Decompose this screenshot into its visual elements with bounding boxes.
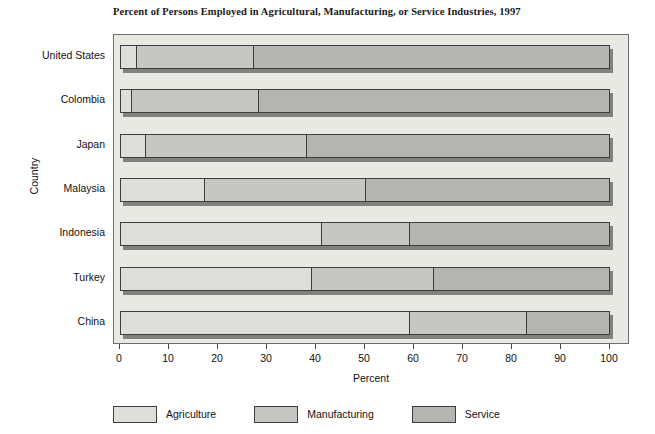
- x-axis-label-40: 40: [295, 352, 335, 364]
- y-axis-label-turkey: Turkey: [5, 271, 105, 283]
- legend-label-service: Service: [465, 408, 500, 420]
- legend-swatch-service: [412, 406, 456, 423]
- bar-track: [120, 45, 610, 69]
- x-axis-tick: [315, 344, 316, 349]
- x-axis-label-70: 70: [442, 352, 482, 364]
- y-axis-label-china: China: [5, 315, 105, 327]
- x-axis-label-30: 30: [246, 352, 286, 364]
- legend-label-manufacturing: Manufacturing: [307, 408, 374, 420]
- legend-swatch-manufacturing: [254, 406, 298, 423]
- x-axis-label-80: 80: [491, 352, 531, 364]
- plot-area: [113, 34, 629, 344]
- bar-track: [120, 267, 610, 291]
- bar-track: [120, 134, 610, 158]
- bar-segments: [120, 267, 610, 291]
- bar-segment-manufacturing: [311, 268, 433, 290]
- legend-swatch-agriculture: [113, 406, 157, 423]
- bar-segment-service: [258, 90, 609, 112]
- bar-segments: [120, 311, 610, 335]
- bar-segment-agriculture: [121, 268, 311, 290]
- x-axis-label-20: 20: [197, 352, 237, 364]
- bar-segment-manufacturing: [145, 135, 306, 157]
- x-axis-tick: [364, 344, 365, 349]
- x-axis-tick: [413, 344, 414, 349]
- x-axis-label-100: 100: [589, 352, 629, 364]
- bar-row: [120, 134, 610, 158]
- x-axis-tick: [217, 344, 218, 349]
- x-axis-tick: [266, 344, 267, 349]
- x-axis-title: Percent: [113, 372, 629, 384]
- bar-row: [120, 222, 610, 246]
- y-axis-label-indonesia: Indonesia: [5, 226, 105, 238]
- x-axis-tick: [560, 344, 561, 349]
- bar-segments: [120, 45, 610, 69]
- y-axis-label-colombia: Colombia: [5, 93, 105, 105]
- bar-row: [120, 267, 610, 291]
- x-axis-label-0: 0: [99, 352, 139, 364]
- bar-track: [120, 222, 610, 246]
- bar-segment-manufacturing: [321, 223, 409, 245]
- bar-row: [120, 178, 610, 202]
- bar-segment-service: [526, 312, 609, 334]
- y-axis-label-united-states: United States: [5, 49, 105, 61]
- y-axis-label-malaysia: Malaysia: [5, 182, 105, 194]
- bar-segment-manufacturing: [131, 90, 258, 112]
- bar-segments: [120, 222, 610, 246]
- bar-segment-agriculture: [121, 179, 204, 201]
- bar-segment-agriculture: [121, 90, 131, 112]
- bar-segment-service: [433, 268, 609, 290]
- bar-row: [120, 89, 610, 113]
- x-axis-label-10: 10: [148, 352, 188, 364]
- bar-segments: [120, 89, 610, 113]
- bar-segment-agriculture: [121, 135, 145, 157]
- bar-row: [120, 311, 610, 335]
- chart-title: Percent of Persons Employed in Agricultu…: [113, 6, 633, 17]
- legend-item-manufacturing: Manufacturing: [254, 406, 374, 423]
- bar-segment-manufacturing: [204, 179, 365, 201]
- x-axis-tick: [462, 344, 463, 349]
- legend-item-service: Service: [412, 406, 500, 423]
- chart-figure: Percent of Persons Employed in Agricultu…: [0, 0, 655, 434]
- bar-track: [120, 178, 610, 202]
- x-axis-label-60: 60: [393, 352, 433, 364]
- x-axis-tick: [609, 344, 610, 349]
- legend-label-agriculture: Agriculture: [166, 408, 216, 420]
- bar-track: [120, 89, 610, 113]
- bar-segment-manufacturing: [409, 312, 526, 334]
- x-axis-tick: [511, 344, 512, 349]
- x-axis-tick: [119, 344, 120, 349]
- chart-legend: AgricultureManufacturingService: [113, 402, 613, 426]
- legend-item-agriculture: Agriculture: [113, 406, 216, 423]
- bar-segment-service: [253, 46, 609, 68]
- bar-segment-manufacturing: [136, 46, 253, 68]
- bar-segment-agriculture: [121, 46, 136, 68]
- bar-segment-service: [365, 179, 609, 201]
- bar-segments: [120, 178, 610, 202]
- bar-row: [120, 45, 610, 69]
- x-axis-label-90: 90: [540, 352, 580, 364]
- x-axis-tick: [168, 344, 169, 349]
- bar-segments: [120, 134, 610, 158]
- bar-segment-agriculture: [121, 223, 321, 245]
- bar-track: [120, 311, 610, 335]
- bar-segment-agriculture: [121, 312, 409, 334]
- bar-segment-service: [306, 135, 609, 157]
- bars-layer: [114, 35, 628, 343]
- y-axis-label-japan: Japan: [5, 138, 105, 150]
- x-axis-label-50: 50: [344, 352, 384, 364]
- bar-segment-service: [409, 223, 609, 245]
